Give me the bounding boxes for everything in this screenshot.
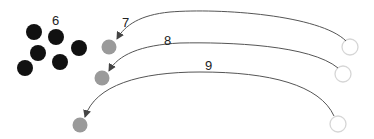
diagram-canvas: 6 7 8 9: [0, 0, 374, 139]
black-dot-group: [17, 24, 87, 76]
group-label: 6: [52, 13, 59, 28]
arrow-label-8: 8: [164, 33, 171, 48]
arrow-label-7: 7: [122, 15, 129, 30]
arrow-label-9: 9: [205, 58, 212, 73]
hollow-circles: [330, 39, 358, 132]
diagram: 6 7 8 9: [0, 0, 374, 139]
